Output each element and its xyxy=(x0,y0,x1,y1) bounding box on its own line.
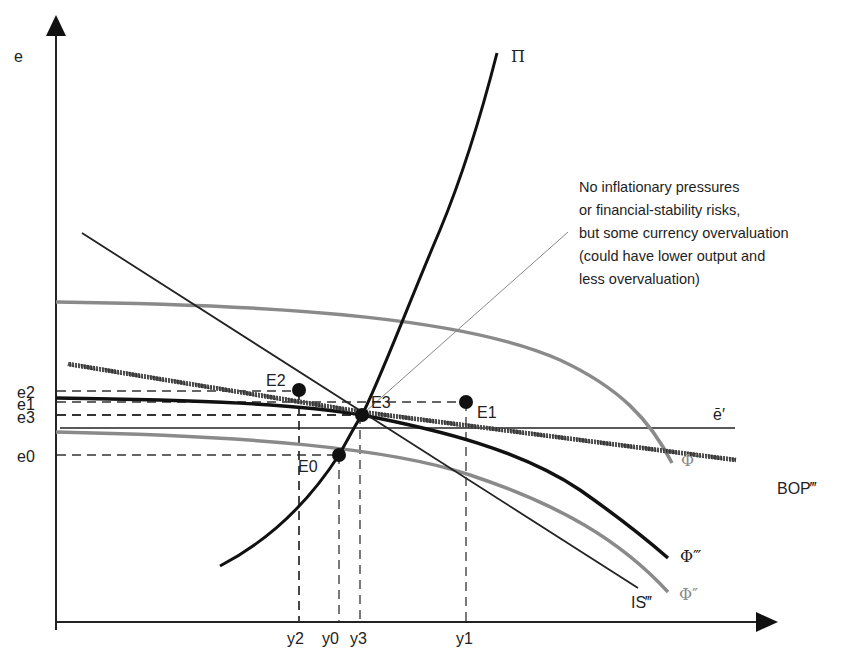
point-e3 xyxy=(355,408,369,422)
economic-diagram: e e2 e1 e3 e0 y2 y0 y3 y1 E0 E1 E2 E3 Π … xyxy=(0,0,857,664)
y-axis-arrow-icon xyxy=(46,15,66,36)
tick-y3: y3 xyxy=(350,630,367,647)
tick-e0: e0 xyxy=(17,448,35,465)
label-e2: E2 xyxy=(266,372,286,389)
tick-y0: y0 xyxy=(322,630,339,647)
label-phi3: Φ‴ xyxy=(680,547,701,566)
point-e2 xyxy=(292,383,306,397)
label-phi2: Φ″ xyxy=(679,585,698,604)
label-bop3: BOP‴ xyxy=(777,480,817,497)
tick-y2: y2 xyxy=(287,630,304,647)
x-axis-arrow-icon xyxy=(756,612,778,632)
diagram-canvas: e e2 e1 e3 e0 y2 y0 y3 y1 E0 E1 E2 E3 Π … xyxy=(0,0,857,664)
label-e3: E3 xyxy=(371,394,391,411)
label-phi1: Φ′ xyxy=(681,451,698,470)
annotation-line: No inflationary pressures xyxy=(579,176,849,199)
label-e1: E1 xyxy=(477,404,497,421)
annotation-text: No inflationary pressures or financial-s… xyxy=(579,176,849,291)
y-axis xyxy=(46,15,66,630)
y-axis-label: e xyxy=(14,48,23,65)
x-axis xyxy=(56,612,778,632)
point-e0 xyxy=(332,448,346,462)
label-is3: IS‴ xyxy=(631,594,652,611)
annotation-line: (could have lower output and xyxy=(579,245,849,268)
point-e1 xyxy=(459,395,473,409)
label-pi: Π xyxy=(511,47,525,66)
annotation-line: or financial-stability risks, xyxy=(579,199,849,222)
tick-e3: e3 xyxy=(17,409,35,426)
annotation-line: but some currency overvaluation xyxy=(579,222,849,245)
phi2-curve xyxy=(56,432,668,592)
tick-y1: y1 xyxy=(456,630,473,647)
label-e0: E0 xyxy=(298,458,318,475)
dashed-guides xyxy=(57,391,466,622)
label-ebar: ē′ xyxy=(713,406,725,423)
annotation-line: less overvaluation) xyxy=(579,268,849,291)
